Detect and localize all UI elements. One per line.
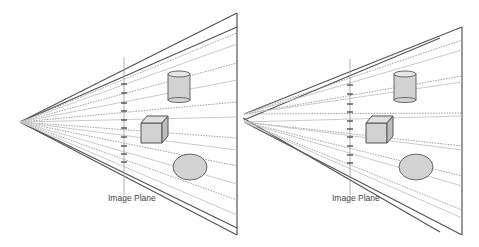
cylinder-object: [394, 71, 416, 103]
rays-dark: [244, 40, 462, 210]
rays-light: [20, 44, 237, 215]
image-plane-label-right: Image Plane: [332, 193, 380, 203]
cylinder-object: [168, 71, 190, 103]
ellipsoid-object: [399, 154, 433, 180]
cube-object: [366, 116, 393, 143]
ellipsoid-object: [173, 154, 207, 180]
cube-object: [141, 116, 168, 143]
image-plane-label-left: Image Plane: [108, 193, 156, 203]
right-panel: [243, 27, 462, 235]
camera-frustum-diagram: [0, 0, 479, 247]
